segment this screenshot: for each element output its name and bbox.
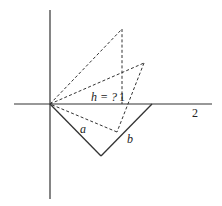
side-b	[101, 104, 152, 156]
diagram-canvas: h = ? 1 2 a b	[0, 0, 222, 206]
label-h: h = ?	[91, 90, 117, 104]
side-a	[50, 104, 101, 156]
label-b: b	[127, 132, 133, 146]
label-two: 2	[192, 106, 198, 120]
label-one: 1	[119, 90, 125, 104]
label-a: a	[80, 122, 86, 136]
